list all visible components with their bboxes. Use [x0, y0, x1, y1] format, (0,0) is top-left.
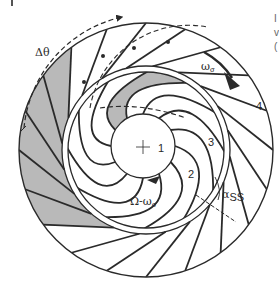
outer-vane: [107, 232, 166, 271]
point-2-label: 2: [188, 168, 194, 180]
point-1-label: 1: [158, 142, 164, 154]
omega-diff-label: Ω-ωσ: [130, 195, 157, 209]
cropped-caption-text: I v (: [274, 12, 279, 54]
delta-theta-label: Δθ: [35, 46, 50, 59]
outer-vane: [102, 23, 146, 78]
outer-vane: [146, 222, 190, 277]
impeller-diagram: Δθ ωσ Ω-ωσ αSS 1 2 3 4: [0, 0, 279, 284]
point-4-label: 4: [256, 100, 262, 112]
point-3-label: 3: [208, 136, 214, 148]
alpha-ss-label: αSS: [222, 188, 244, 203]
cropped-top-mark: [11, 0, 13, 6]
outer-vane: [71, 234, 139, 253]
omega-sigma-label: ωσ: [201, 60, 215, 74]
outer-vane: [228, 130, 267, 189]
inner-blade: [171, 129, 213, 193]
outer-vane: [218, 106, 273, 150]
